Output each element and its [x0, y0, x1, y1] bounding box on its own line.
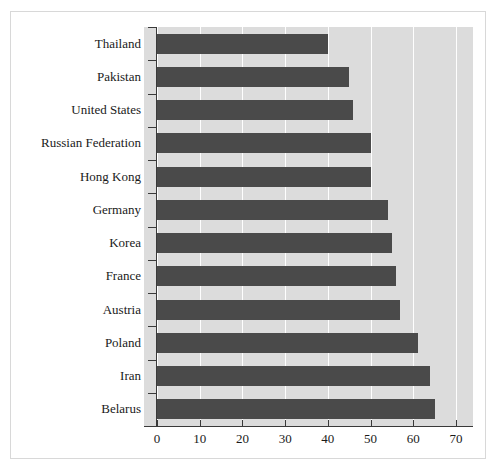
category-label: Pakistan	[1, 69, 141, 85]
bar-row	[144, 67, 473, 87]
bar	[157, 167, 371, 187]
category-label: France	[1, 268, 141, 284]
bar	[157, 300, 400, 320]
bar	[157, 399, 435, 419]
category-label: United States	[1, 102, 141, 118]
value-tick	[413, 420, 414, 427]
category-tick	[148, 293, 156, 294]
bar-row	[144, 100, 473, 120]
bar-row	[144, 167, 473, 187]
bar	[157, 333, 418, 353]
category-tick	[148, 260, 156, 261]
value-tick-label: 70	[436, 431, 476, 447]
bar-row	[144, 399, 473, 419]
value-tick	[371, 420, 372, 427]
category-label: Poland	[1, 335, 141, 351]
value-axis-line	[144, 426, 473, 427]
bar	[157, 266, 396, 286]
value-tick	[157, 420, 158, 427]
value-tick	[456, 420, 457, 427]
bar-row	[144, 133, 473, 153]
value-tick-label: 0	[137, 431, 177, 447]
category-tick	[148, 160, 156, 161]
category-axis-labels: ThailandPakistanUnited StatesRussian Fed…	[0, 0, 141, 470]
category-label: Russian Federation	[1, 135, 141, 151]
bar-row	[144, 200, 473, 220]
category-tick	[148, 393, 156, 394]
value-tick	[242, 420, 243, 427]
value-tick-label: 30	[265, 431, 305, 447]
category-label: Iran	[1, 368, 141, 384]
bar	[157, 200, 388, 220]
bars-layer	[144, 27, 473, 426]
bar-row	[144, 34, 473, 54]
bar-row	[144, 366, 473, 386]
category-tick	[148, 60, 156, 61]
category-tick	[148, 426, 156, 427]
category-tick	[148, 227, 156, 228]
category-label: Hong Kong	[1, 169, 141, 185]
bar-chart-figure: ThailandPakistanUnited StatesRussian Fed…	[0, 0, 497, 470]
value-tick	[328, 420, 329, 427]
category-tick	[148, 94, 156, 95]
value-tick-label: 40	[308, 431, 348, 447]
bar	[157, 133, 371, 153]
category-label: Korea	[1, 235, 141, 251]
bar-row	[144, 266, 473, 286]
category-tick	[148, 326, 156, 327]
value-tick-label: 60	[393, 431, 433, 447]
category-label: Thailand	[1, 36, 141, 52]
bar	[157, 34, 328, 54]
bar	[157, 233, 392, 253]
category-label: Austria	[1, 302, 141, 318]
category-label: Belarus	[1, 401, 141, 417]
value-tick-label: 50	[351, 431, 391, 447]
bar	[157, 366, 430, 386]
bar-row	[144, 300, 473, 320]
category-tick	[148, 27, 156, 28]
value-tick-label: 10	[180, 431, 220, 447]
bar-row	[144, 333, 473, 353]
category-tick	[148, 193, 156, 194]
bar	[157, 67, 349, 87]
category-tick	[148, 127, 156, 128]
bar	[157, 100, 353, 120]
category-axis-line	[156, 27, 157, 426]
value-tick	[285, 420, 286, 427]
category-tick	[148, 360, 156, 361]
value-tick-label: 20	[222, 431, 262, 447]
category-label: Germany	[1, 202, 141, 218]
value-tick	[200, 420, 201, 427]
bar-row	[144, 233, 473, 253]
